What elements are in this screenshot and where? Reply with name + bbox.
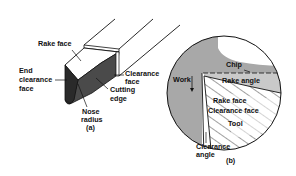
label-tool: Tool: [228, 119, 243, 128]
label-cutting-edge-line2: edge: [110, 94, 127, 103]
cutting-zone-detail: [160, 30, 292, 160]
label-rake-face-b: Rake face: [213, 96, 247, 105]
label-clearance-angle-line2: angle: [196, 150, 215, 159]
label-rake-angle: Rake angle: [222, 76, 260, 85]
cutting-tool-diagram: Rake face End clearance face Clearance f…: [0, 0, 296, 176]
figure-b-caption: (b): [226, 156, 236, 165]
label-end-clearance-face-line2: clearance: [19, 75, 52, 84]
label-chip: Chip: [226, 60, 243, 69]
label-end-clearance-face-line1: End: [19, 66, 33, 75]
label-work: Work: [173, 75, 191, 84]
figure-a-caption: (a): [86, 123, 95, 132]
label-clearance-face-b: Clearance face: [208, 106, 259, 115]
label-rake-face: Rake face: [38, 39, 72, 48]
label-end-clearance-face-line3: face: [19, 84, 33, 93]
label-cutting-edge-line1: Cutting: [110, 85, 135, 94]
